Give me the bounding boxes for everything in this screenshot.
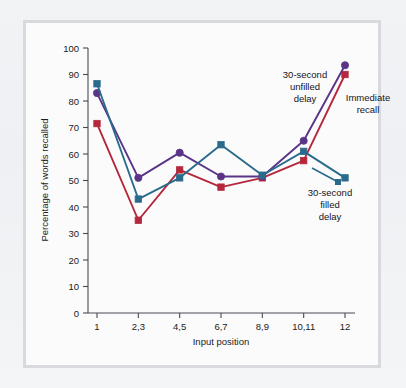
data-point-marker [300,157,306,163]
data-point-marker [94,81,100,87]
x-axis-ticks: 12,34,56,78,910,1112 [94,313,350,332]
annotation-immediate-recall-line-1: Immediate [346,92,390,103]
annotation-leader-marker [335,179,341,185]
annotation-immediate-recall-line-2: recall [357,104,380,115]
data-point-marker [135,174,142,181]
y-tick-label: 0 [74,308,79,319]
x-tick-label: 4,5 [173,321,186,332]
line-chart: 0102030405060708090100 12,34,56,78,910,1… [0,0,406,388]
data-point-marker [342,175,348,181]
y-tick-label: 100 [63,43,79,54]
y-tick-label: 40 [68,202,79,213]
x-tick-label: 6,7 [214,321,227,332]
y-tick-label: 80 [68,96,79,107]
data-point-marker [300,148,306,154]
annotation-filled-delay-line-2: filled [320,199,340,210]
annotation-unfilled-delay-line-1: 30-second [283,69,327,80]
y-tick-label: 20 [68,255,79,266]
data-point-marker [341,62,348,69]
annotation-filled-delay: 30-second filled delay [308,187,352,222]
data-point-marker [176,167,182,173]
x-tick-label: 2,3 [132,321,145,332]
annotation-unfilled-delay-line-2: unfilled [290,81,320,92]
x-tick-label: 12 [340,321,351,332]
x-axis-title: Input position [193,336,250,347]
y-tick-label: 10 [68,281,79,292]
x-tick-label: 10,11 [292,321,315,332]
data-point-marker [135,217,141,223]
y-tick-label: 60 [68,149,79,160]
data-point-marker [94,120,100,126]
y-tick-label: 30 [68,228,79,239]
data-point-marker [259,172,265,178]
y-tick-label: 70 [68,122,79,133]
annotation-unfilled-delay: 30-second unfilled delay [283,69,327,104]
data-point-marker [176,149,183,156]
y-axis-title: Percentage of words recalled [39,118,50,241]
data-point-marker [217,173,224,180]
x-tick-label: 1 [94,321,99,332]
data-point-marker [176,175,182,181]
annotation-unfilled-delay-line-3: delay [294,93,317,104]
y-axis-ticks: 0102030405060708090100 [63,43,88,319]
data-point-marker [218,142,224,148]
annotation-filled-delay-line-1: 30-second [308,187,352,198]
y-tick-label: 90 [68,69,79,80]
data-point-marker [342,71,348,77]
annotation-filled-delay-line-3: delay [319,211,342,222]
data-point-marker [300,137,307,144]
y-tick-label: 50 [68,175,79,186]
annotation-immediate-recall: Immediate recall [346,92,390,115]
data-point-marker [218,184,224,190]
data-point-marker [135,196,141,202]
annotation-leaders [312,168,341,185]
x-tick-label: 8,9 [256,321,269,332]
